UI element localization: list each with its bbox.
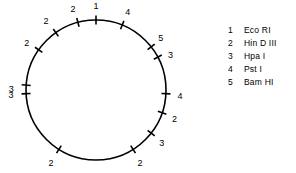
site-label-site-3: 5 [158, 33, 163, 43]
restriction-map-figure: 14534232233222 1 Eco RI 2 Hin D III 3 Hp… [0, 0, 296, 173]
legend-number: 5 [228, 76, 244, 89]
site-label-site-2: 4 [125, 7, 130, 17]
site-label-site-5: 4 [177, 91, 182, 101]
legend-item: 1 Eco RI [228, 24, 294, 37]
site-tick-site-12 [35, 47, 42, 52]
site-tick-site-8 [131, 146, 136, 154]
site-label-site-7: 3 [159, 138, 164, 148]
site-tick-site-14 [77, 18, 79, 27]
site-label-site-13: 2 [43, 16, 48, 26]
restriction-site-labels: 14534232233222 [9, 1, 183, 168]
legend-item: 4 Pst I [228, 63, 294, 76]
site-label-site-11: 3 [9, 84, 14, 94]
plasmid-backbone-circle [26, 20, 166, 160]
restriction-site-ticks [22, 16, 171, 154]
legend-enzyme-name: Eco RI [244, 24, 271, 37]
legend-enzyme-name: Hin D III [244, 37, 277, 50]
site-tick-site-11 [22, 85, 31, 86]
legend-enzyme-name: Hpa I [244, 50, 265, 63]
legend-number: 4 [228, 63, 244, 76]
legend-number: 2 [228, 37, 244, 50]
legend-enzyme-name: Pst I [244, 63, 262, 76]
legend-item: 5 Bam HI [228, 76, 294, 89]
legend-item: 2 Hin D III [228, 37, 294, 50]
enzyme-legend: 1 Eco RI 2 Hin D III 3 Hpa I 4 Pst I 5 B… [228, 24, 294, 89]
legend-enzyme-name: Bam HI [244, 76, 274, 89]
site-label-site-9: 2 [49, 158, 54, 168]
site-tick-site-9 [57, 146, 62, 154]
legend-number: 3 [228, 50, 244, 63]
site-label-site-14: 2 [71, 4, 76, 14]
legend-item: 3 Hpa I [228, 50, 294, 63]
site-tick-site-13 [53, 29, 58, 36]
site-label-site-6: 2 [172, 114, 177, 124]
legend-number: 1 [228, 24, 244, 37]
site-label-site-4: 3 [168, 50, 173, 60]
site-label-site-1: 1 [93, 1, 98, 11]
site-label-site-8: 2 [137, 158, 142, 168]
site-label-site-12: 2 [24, 38, 29, 48]
